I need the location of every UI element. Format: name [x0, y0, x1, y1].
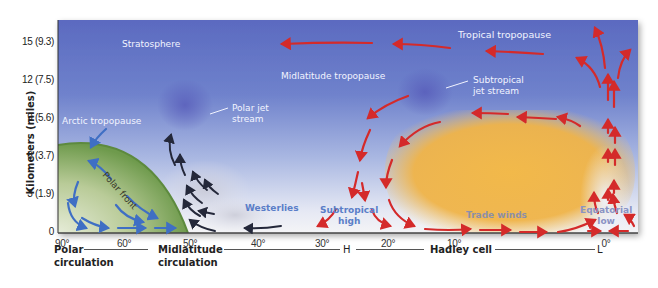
label-equatorial-low: Equatorial low: [580, 205, 632, 227]
y-tick-label: 6 (3.7): [0, 150, 54, 161]
hadley-arrow: [425, 229, 470, 230]
y-tick-label: 3 (1.9): [0, 188, 54, 199]
label-polar-circulation: Polar circulation: [54, 243, 114, 269]
y-tick-label: 9 (5.6): [0, 112, 54, 123]
label-trade-winds: Trade winds: [466, 210, 527, 221]
label-hadley-cell: Hadley cell: [430, 243, 492, 256]
label-polar-jet-stream: Polar jet stream: [232, 103, 269, 125]
polar-jet-glow: [157, 79, 213, 131]
polar-bracket-line: [84, 249, 148, 250]
label-arctic-tropopause: Arctic tropopause: [62, 116, 141, 127]
hadley-arrow: [473, 113, 508, 114]
label-midlatitude-circulation: Midlatitude circulation: [158, 243, 223, 269]
y-tick-label: 12 (7.5): [0, 74, 54, 85]
label-subtropical-jet-stream: Subtropical jet stream: [473, 75, 524, 97]
y-tick-label: 15 (9.3): [0, 36, 54, 47]
x-tick-label: 20°: [381, 238, 395, 249]
label-westerlies: Westerlies: [245, 203, 299, 214]
subtropical-jet-glow: [397, 68, 453, 116]
atmospheric-circulation-diagram: Kilometers (miles) 15 (9.3)12 (7.5)9 (5.…: [0, 0, 658, 288]
x-tick-label: 40°: [251, 238, 265, 249]
y-axis-title: Kilometers (miles): [25, 83, 36, 203]
label-low: L: [597, 243, 603, 256]
label-tropical-tropopause: Tropical tropopause: [458, 29, 551, 40]
label-high: H: [343, 243, 351, 256]
midlatitude-bracket-line: [224, 249, 340, 250]
label-midlatitude-tropopause: Midlatitude tropopause: [281, 71, 385, 82]
hadley-arrow: [282, 43, 372, 44]
label-subtropical-high: Subtropical high: [320, 205, 378, 227]
x-tick-label: 60°: [117, 238, 131, 249]
y-tick-label: 0: [0, 226, 54, 237]
hadley-bracket-line-right: [495, 249, 595, 250]
x-tick-label: 30°: [315, 238, 329, 249]
hadley-bracket-line-left: [356, 249, 424, 250]
label-stratosphere: Stratosphere: [122, 39, 180, 50]
